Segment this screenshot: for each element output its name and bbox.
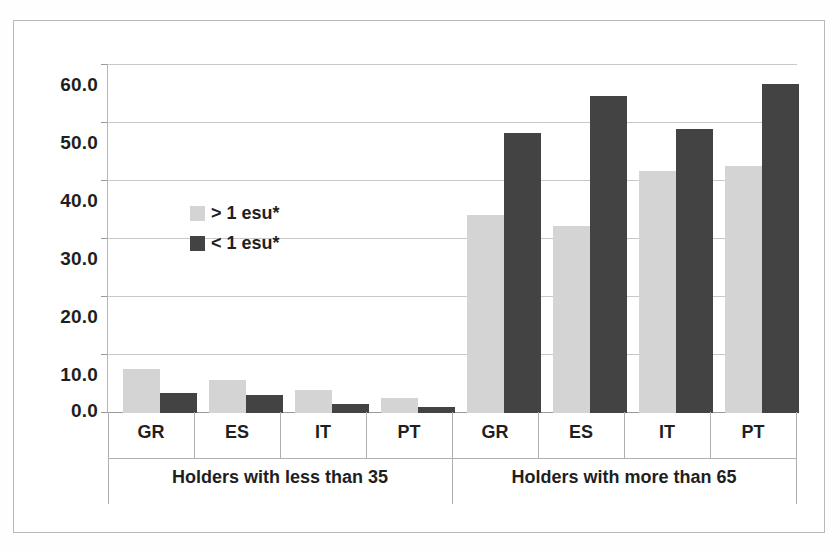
legend-swatch-light-gray-icon: [190, 206, 205, 221]
legend-item-gt-1-esu: > 1 esu*: [190, 198, 340, 228]
chart-legend: > 1 esu* < 1 esu*: [190, 198, 340, 258]
y-tick-label-50: 50.0: [36, 132, 98, 154]
bar-group2-IT-series-gt1esu: [639, 171, 676, 413]
category-axis: GR ES IT PT GR ES IT PT Holders with les…: [108, 412, 797, 512]
y-tick-label-40: 40.0: [36, 190, 98, 212]
y-tick-label-20: 20.0: [36, 306, 98, 328]
category-label-g2-IT: IT: [624, 422, 710, 443]
group-label-less-than-35: Holders with less than 35: [108, 467, 452, 488]
bar-group2-ES-series-gt1esu: [553, 226, 590, 413]
bar-group1-ES-series-gt1esu: [209, 380, 246, 413]
bar-group2-GR-series-lt1esu: [504, 133, 541, 413]
bar-group2-PT-series-gt1esu: [725, 166, 762, 413]
category-label-g1-IT: IT: [280, 422, 366, 443]
bar-group1-GR-series-lt1esu: [160, 393, 197, 413]
bar-group1-GR-series-gt1esu: [123, 369, 160, 413]
bar-group2-PT-series-lt1esu: [762, 84, 799, 413]
group-label-more-than-65: Holders with more than 65: [452, 467, 796, 488]
bar-group1-ES-series-lt1esu: [246, 395, 283, 413]
y-tick-label-10: 10.0: [36, 364, 98, 386]
chart-figure: 60.0 50.0 40.0 30.0 20.0 10.0 0.0: [0, 0, 838, 554]
legend-label-gt-1-esu: > 1 esu*: [211, 203, 280, 224]
category-label-g1-ES: ES: [194, 422, 280, 443]
y-tick-label-60: 60.0: [36, 74, 98, 96]
y-tick-label-30: 30.0: [36, 248, 98, 270]
bar-group2-GR-series-gt1esu: [467, 215, 504, 413]
bar-group2-ES-series-lt1esu: [590, 96, 627, 413]
bar-group1-PT-series-gt1esu: [381, 398, 418, 413]
category-label-g2-GR: GR: [452, 422, 538, 443]
y-tick-label-0: 0.0: [36, 400, 98, 422]
gridline-50: [108, 122, 797, 123]
legend-label-lt-1-esu: < 1 esu*: [211, 233, 280, 254]
legend-item-lt-1-esu: < 1 esu*: [190, 228, 340, 258]
legend-swatch-dark-gray-icon: [190, 236, 205, 251]
y-tick-mark-0: [101, 412, 108, 413]
category-label-g2-PT: PT: [710, 422, 796, 443]
chart-frame: 60.0 50.0 40.0 30.0 20.0 10.0 0.0: [13, 20, 825, 533]
gridline-60: [108, 64, 797, 65]
bar-group2-IT-series-lt1esu: [676, 129, 713, 413]
category-label-g1-PT: PT: [366, 422, 452, 443]
category-axis-divider-line: [108, 458, 797, 459]
category-label-g2-ES: ES: [538, 422, 624, 443]
bar-group1-IT-series-gt1esu: [295, 390, 332, 413]
category-label-g1-GR: GR: [108, 422, 194, 443]
